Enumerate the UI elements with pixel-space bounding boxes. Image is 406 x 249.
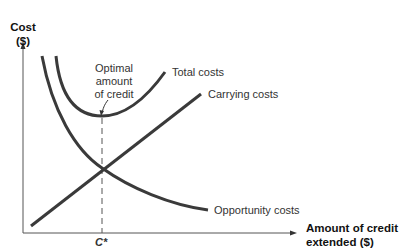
x-axis-label: Amount of credit extended ($) (306, 221, 398, 249)
x-axis-label-line2: extended ($) (306, 235, 398, 249)
x-axis-arrow-icon (290, 231, 297, 236)
optimal-annotation: Optimal amount of credit (88, 62, 140, 101)
opportunity-costs-label: Opportunity costs (214, 204, 300, 217)
y-axis-label: Cost ($) (6, 20, 40, 48)
chart-canvas (0, 0, 406, 249)
c-star-tick-label: C* (95, 236, 107, 249)
carrying-costs-label: Carrying costs (208, 88, 278, 101)
x-axis-label-line1: Amount of credit (306, 221, 398, 235)
optimal-line1: Optimal (88, 62, 140, 75)
y-axis-label-line2: ($) (6, 34, 40, 48)
optimal-line3: of credit (88, 88, 140, 101)
y-axis-label-line1: Cost (6, 20, 40, 34)
total-costs-label: Total costs (172, 66, 224, 79)
optimal-line2: amount (88, 75, 140, 88)
